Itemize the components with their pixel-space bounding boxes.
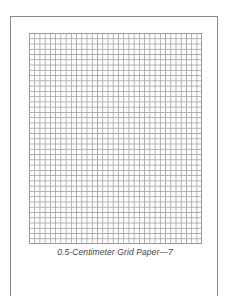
page-caption: 0.5-Centimeter Grid Paper—7 [10, 247, 220, 257]
grid-paper [29, 33, 202, 244]
